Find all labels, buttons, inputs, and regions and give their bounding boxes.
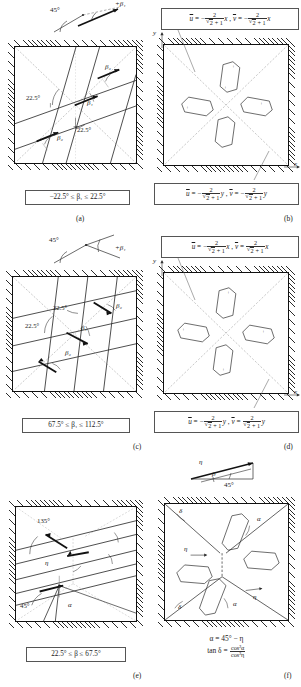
panel-d: u = −22 + 1x , v = 22 + 1x y x + + + + (151, 228, 301, 457)
panel-c-die-square: 22.5° 22.5° β₁ β₂ β₂ (12, 276, 137, 392)
panel-b-leader-lines (151, 0, 301, 205)
panel-a-top-sketch: 45° +β₁ (34, 2, 139, 36)
panel-c-beta2-upper-label: β₂ (116, 303, 122, 310)
panel-a-hatch-frame: 22.5° 22.5° β₁ β₂ β₂ (8, 40, 143, 170)
panel-a-sliplines (15, 47, 136, 163)
panel-a-angle-bottom-label: 22.5° (77, 127, 91, 134)
panel-a-angle-left-label: 22.5° (26, 95, 40, 102)
panel-c-label: (c) (133, 442, 141, 451)
panel-f-formula-line2-fraction: cos²α cos²η (230, 645, 245, 658)
panel-d-bottom-formula-box: u = −22 + 1y , v = 22 + 1y (154, 411, 299, 433)
panel-e-caption-box: 22.5° ≤ β ≤ 67.5° (26, 647, 126, 662)
panel-f-label: (f) (284, 671, 292, 680)
panel-b: u = −22 + 1x , v = −22 + 1x y x + + + (151, 0, 301, 228)
panel-c-caption-box: 67.5° ≤ β₁ ≤ 112.5° (22, 418, 130, 433)
panel-e-die-square: 135° 45° η α (15, 506, 137, 622)
panel-a-caption-text: −22.5° ≤ β₁ ≤ 22.5° (49, 194, 105, 202)
panel-e-eta-label: η (45, 560, 48, 567)
panel-e-label: (e) (133, 671, 141, 680)
panel-a-beta-plus-label: +β₁ (115, 1, 126, 8)
panel-f-formula-block: α = 45° − η tan δ = cos²α cos²η (151, 635, 301, 677)
panel-f-delta-bottom-label: δ (178, 604, 181, 611)
panel-e-caption-text: 22.5° ≤ β ≤ 67.5° (51, 651, 101, 659)
panel-c-beta2-lower-label: β₂ (65, 350, 71, 357)
panel-a-caption-box: −22.5° ≤ β₁ ≤ 22.5° (25, 190, 130, 205)
panel-e-alpha-label: α (68, 602, 72, 609)
panel-a-beta2-lower-label: β₂ (57, 135, 63, 142)
panel-e-hatch-frame: 135° 45° η α (9, 500, 143, 628)
panel-f-formula-line2: tan δ = cos²α cos²η (151, 645, 301, 658)
panel-b-bottom-formula-text: u = −22 + 1y , v = −22 + 1y (186, 187, 267, 201)
panel-f-formula-line2-lhs: tan δ = (207, 646, 227, 655)
panel-c-sliplines (13, 277, 136, 391)
panel-f-eta-right-label: η (253, 594, 256, 601)
panel-c: 45° +β₁ (0, 228, 150, 457)
panel-d-bottom-formula-text: u = −22 + 1y , v = 22 + 1y (188, 415, 265, 429)
panel-e: 135° 45° η α 22.5° ≤ β ≤ 67.5° (e) (0, 457, 150, 687)
panel-c-angle-left-label: 22.5° (25, 323, 39, 330)
panel-e-angle-45-label: 45° (20, 603, 30, 610)
panel-d-label: (d) (284, 442, 293, 451)
panel-a-beta1-label: β₁ (87, 100, 93, 107)
panel-d-leader-lines (151, 228, 301, 433)
panel-f-formula-line1: α = 45° − η (151, 635, 301, 644)
panel-f-eta-sketch-label: η (199, 459, 202, 466)
panel-a-beta2-upper-label: β₂ (105, 64, 111, 71)
panel-e-angle-135-label: 135° (37, 518, 50, 525)
panel-e-sliplines (16, 507, 136, 621)
panel-f-delta-top-label: δ (179, 508, 182, 515)
panel-b-label: (b) (284, 214, 293, 223)
panel-a-label: (a) (76, 214, 84, 223)
panel-c-beta-plus-label: +β₁ (115, 245, 126, 252)
panel-b-bottom-formula-box: u = −22 + 1y , v = −22 + 1y (154, 183, 299, 205)
panel-f-angle-45-label: 45° (224, 482, 234, 489)
panel-c-angle-upper-label: 22.5° (53, 305, 67, 312)
panel-f: η β 45° (151, 457, 301, 687)
panel-f-field (165, 504, 288, 620)
panel-a: 45° +β₁ (0, 0, 150, 228)
panel-c-hatch-frame: 22.5° 22.5° β₁ β₂ β₂ (6, 270, 143, 398)
panel-f-die-square: δ δ α α η η (164, 503, 289, 621)
panel-c-angle-45-label: 45° (49, 237, 59, 244)
panel-c-top-sketch: 45° +β₁ (34, 233, 139, 267)
panel-a-angle-45-label: 45° (50, 7, 60, 14)
panel-c-caption-text: 67.5° ≤ β₁ ≤ 112.5° (48, 422, 103, 430)
panel-f-hatch-frame: δ δ α α η η (158, 497, 295, 627)
panel-c-beta1-label: β₁ (81, 325, 87, 332)
panel-f-eta-left-label: η (184, 546, 187, 553)
panel-f-beta-sketch-label: β (212, 471, 216, 478)
panel-a-die-square: 22.5° 22.5° β₁ β₂ β₂ (14, 46, 137, 164)
panel-f-top-sketch: η β 45° (183, 457, 273, 493)
panel-f-alpha-top-label: α (257, 516, 261, 523)
panel-f-alpha-bottom-label: α (233, 601, 237, 608)
